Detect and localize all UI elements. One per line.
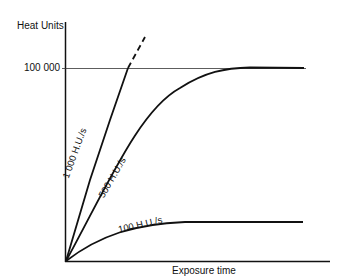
y-axis-label: Heat Units — [17, 20, 64, 31]
chart-canvas — [0, 0, 344, 280]
x-axis-label: Exposure time — [172, 265, 236, 276]
series-500-hus — [66, 68, 304, 262]
series-100-hus — [66, 222, 303, 261]
y-tick-100000: 100 000 — [24, 62, 60, 73]
series-1000-hus-dashed — [128, 37, 145, 68]
